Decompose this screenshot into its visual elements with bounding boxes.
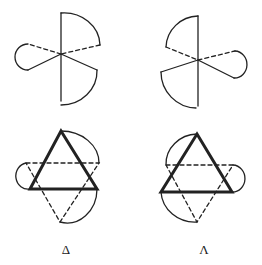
propeller-lambda [161, 16, 247, 108]
triangle-delta [16, 131, 99, 223]
triangle-lambda [161, 134, 245, 222]
isomer-diagram [0, 0, 262, 265]
delta-label: Δ [62, 242, 70, 258]
propeller-delta [15, 13, 100, 105]
lambda-label: Λ [199, 242, 208, 258]
